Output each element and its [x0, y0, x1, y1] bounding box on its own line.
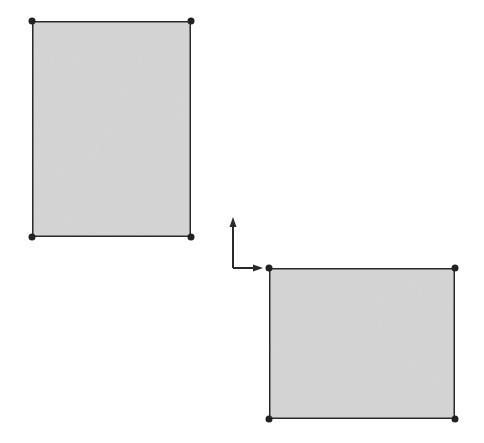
- vertex-point[interactable]: [266, 416, 273, 423]
- rectangle-upper-left[interactable]: [29, 18, 195, 241]
- vertex-point[interactable]: [29, 234, 36, 241]
- y-axis-arrow-icon: [230, 217, 237, 227]
- vertex-point[interactable]: [266, 265, 273, 272]
- sketch-canvas: [0, 0, 484, 443]
- vertex-point[interactable]: [29, 18, 36, 25]
- vertex-point[interactable]: [452, 416, 459, 423]
- x-axis-arrow-icon: [253, 265, 263, 272]
- vertex-point[interactable]: [452, 265, 459, 272]
- rectangle-lower-right[interactable]: [266, 265, 459, 423]
- vertex-point[interactable]: [188, 18, 195, 25]
- origin-axes-icon: [230, 217, 264, 272]
- vertex-point[interactable]: [188, 234, 195, 241]
